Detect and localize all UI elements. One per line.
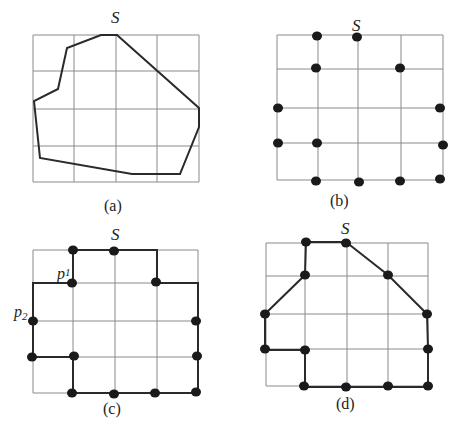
grid-d bbox=[266, 243, 428, 386]
boundary-points-b bbox=[273, 32, 448, 187]
caption-b: (b) bbox=[330, 192, 349, 210]
panel-a: S (a) bbox=[33, 8, 199, 215]
panel-c: S p1 p2 (c) bbox=[13, 225, 202, 418]
start-label-c: S bbox=[111, 225, 120, 244]
start-label-a: S bbox=[111, 8, 120, 27]
grid-b bbox=[277, 35, 443, 180]
caption-a: (a) bbox=[104, 197, 122, 215]
point-label-p2: p2 bbox=[13, 303, 28, 322]
start-label-b: S bbox=[352, 16, 361, 35]
panel-b: S (b) bbox=[273, 16, 448, 210]
caption-d: (d) bbox=[336, 395, 355, 413]
grid-a bbox=[33, 35, 199, 182]
figure-canvas: S (a) S (b) bbox=[0, 0, 458, 430]
panel-d: S (d) bbox=[260, 219, 433, 413]
start-label-d: S bbox=[341, 219, 350, 238]
caption-c: (c) bbox=[103, 400, 121, 418]
